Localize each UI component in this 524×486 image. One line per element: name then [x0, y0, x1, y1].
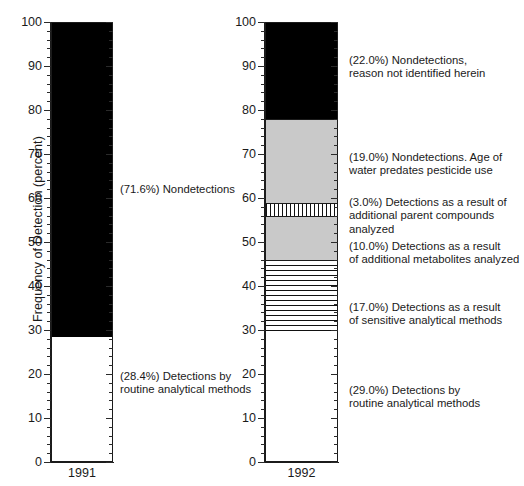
y-axis-major-tick [44, 66, 51, 67]
y-axis-minor-tick [109, 277, 113, 278]
y-axis-minor-tick [109, 92, 113, 93]
y-axis-major-tick [106, 22, 113, 23]
y-axis-minor-tick [261, 189, 265, 190]
y-axis-major-tick [106, 110, 113, 111]
y-axis-tick-label: 40 [242, 279, 256, 293]
y-axis-major-tick [106, 242, 113, 243]
y-axis-major-tick [258, 242, 265, 243]
y-axis-major-tick [258, 66, 265, 67]
y-axis-major-tick [44, 154, 51, 155]
y-axis-major-tick [44, 462, 51, 463]
y-axis-minor-tick [47, 251, 51, 252]
annotation-1992-additional-parent-compounds: (3.0%) Detections as a result of additio… [349, 196, 524, 236]
y-axis-minor-tick [109, 295, 113, 296]
y-axis-minor-tick [109, 304, 113, 305]
y-axis-minor-tick [109, 233, 113, 234]
y-axis-minor-tick [47, 295, 51, 296]
y-axis-minor-tick [334, 409, 338, 410]
y-axis-tick-label: 100 [235, 15, 256, 29]
y-axis-minor-tick [109, 400, 113, 401]
y-axis-minor-tick [334, 365, 338, 366]
y-axis-major-tick [331, 242, 338, 243]
y-axis-minor-tick [47, 216, 51, 217]
y-axis-major-tick [258, 154, 265, 155]
bar-segment-nondetections-unidentified [266, 23, 337, 119]
y-axis-minor-tick [261, 207, 265, 208]
y-axis-minor-tick [334, 101, 338, 102]
y-axis-minor-tick [261, 304, 265, 305]
y-axis-minor-tick [109, 339, 113, 340]
y-axis-minor-tick [261, 180, 265, 181]
y-axis-minor-tick [109, 216, 113, 217]
y-axis-minor-tick [47, 180, 51, 181]
y-axis-minor-tick [261, 48, 265, 49]
y-axis-minor-tick [47, 277, 51, 278]
bar-segment-routine-detections [52, 337, 112, 461]
y-axis-minor-tick [261, 383, 265, 384]
y-axis-minor-tick [47, 383, 51, 384]
y-axis-minor-tick [334, 436, 338, 437]
y-axis-tick-label: 10 [28, 411, 42, 425]
y-axis-minor-tick [47, 312, 51, 313]
y-axis-minor-tick [47, 444, 51, 445]
y-axis-minor-tick [109, 251, 113, 252]
y-axis-major-tick [331, 110, 338, 111]
y-axis-minor-tick [334, 224, 338, 225]
y-axis-minor-tick [261, 277, 265, 278]
stacked-bar-1991 [51, 22, 113, 462]
y-axis-minor-tick [109, 312, 113, 313]
y-axis-minor-tick [261, 57, 265, 58]
y-axis-minor-tick [109, 383, 113, 384]
y-axis-minor-tick [47, 101, 51, 102]
y-axis-minor-tick [47, 348, 51, 349]
y-axis-tick-label: 60 [28, 191, 42, 205]
y-axis-minor-tick [261, 128, 265, 129]
y-axis-minor-tick [47, 207, 51, 208]
y-axis-minor-tick [261, 409, 265, 410]
annotation-1991-nondetections: (71.6%) Nondetections [120, 183, 235, 196]
y-axis-title: Frequency of Detection (percent) [31, 104, 45, 354]
y-axis-minor-tick [109, 145, 113, 146]
y-axis-major-tick [44, 198, 51, 199]
y-axis-minor-tick [261, 40, 265, 41]
y-axis-major-tick [106, 462, 113, 463]
y-axis-minor-tick [261, 392, 265, 393]
category-label-1992: 1992 [265, 466, 338, 480]
y-axis-minor-tick [109, 321, 113, 322]
y-axis-minor-tick [109, 409, 113, 410]
y-axis-minor-tick [261, 400, 265, 401]
y-axis-tick-label: 0 [249, 455, 256, 469]
y-axis-major-tick [106, 418, 113, 419]
annotation-1992-age-of-water: (19.0%) Nondetections. Age of water pred… [349, 151, 502, 178]
y-axis-major-tick [44, 374, 51, 375]
y-axis-major-tick [258, 198, 265, 199]
y-axis-minor-tick [109, 356, 113, 357]
y-axis-major-tick [44, 110, 51, 111]
y-axis-minor-tick [47, 92, 51, 93]
y-axis-tick-label: 50 [28, 235, 42, 249]
y-axis-minor-tick [47, 339, 51, 340]
y-axis-minor-tick [261, 295, 265, 296]
y-axis-major-tick [331, 154, 338, 155]
y-axis-minor-tick [334, 31, 338, 32]
y-axis-minor-tick [109, 180, 113, 181]
y-axis-tick-label: 90 [242, 59, 256, 73]
y-axis-major-tick [331, 22, 338, 23]
y-axis-minor-tick [47, 392, 51, 393]
y-axis-minor-tick [109, 427, 113, 428]
annotation-1992-routine-detections: (29.0%) Detections by routine analytical… [349, 384, 480, 411]
y-axis-minor-tick [334, 207, 338, 208]
y-axis-minor-tick [47, 436, 51, 437]
x-axis-line [264, 462, 339, 463]
y-axis-minor-tick [334, 392, 338, 393]
y-axis-tick-label: 70 [242, 147, 256, 161]
y-axis-minor-tick [334, 444, 338, 445]
y-axis-tick-label: 30 [28, 323, 42, 337]
y-axis-major-tick [331, 286, 338, 287]
y-axis-minor-tick [47, 84, 51, 85]
y-axis-minor-tick [261, 136, 265, 137]
y-axis-minor-tick [261, 119, 265, 120]
y-axis-minor-tick [334, 268, 338, 269]
y-axis-minor-tick [261, 453, 265, 454]
y-axis-minor-tick [334, 163, 338, 164]
